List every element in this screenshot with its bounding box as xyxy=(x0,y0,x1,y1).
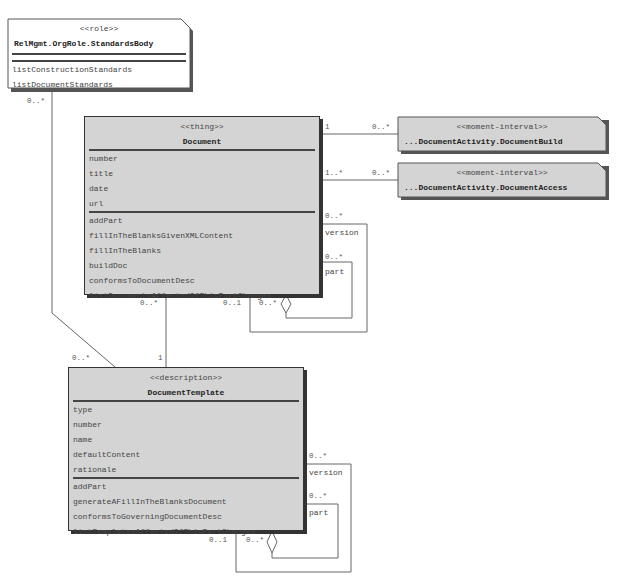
operation: conformsToGoverningDocumentDesc xyxy=(69,509,303,524)
operation: addPart xyxy=(69,479,303,494)
operation: generateAFillInTheBlanksDocument xyxy=(69,494,303,509)
multiplicity-label: 0..* xyxy=(246,536,264,544)
multiplicity-label: 1..* xyxy=(325,169,343,177)
role-label-part: part xyxy=(309,508,328,517)
class-name: ...DocumentActivity.DocumentBuild xyxy=(398,134,606,149)
class-stereotype: <<moment-interval>> xyxy=(398,163,606,180)
class-document-build[interactable]: <<moment-interval>> ...DocumentActivity.… xyxy=(398,117,606,151)
multiplicity-label: 0..* xyxy=(259,299,277,307)
class-name: DocumentTemplate xyxy=(69,385,303,400)
multiplicity-label: 0..1 xyxy=(209,536,227,544)
multiplicity-label: 0..* xyxy=(309,492,327,500)
multiplicity-label: 1 xyxy=(158,354,163,362)
uml-class-diagram: <<role>> RelMgmt.OrgRole.StandardsBody l… xyxy=(0,0,619,584)
role-label-version: version xyxy=(325,228,359,237)
class-name: ...DocumentActivity.DocumentAccess xyxy=(398,180,606,195)
class-stereotype: <<description>> xyxy=(69,368,303,385)
role-label-part: part xyxy=(325,267,344,276)
multiplicity-label: 0..* xyxy=(140,299,158,307)
multiplicity-label: 0..1 xyxy=(223,299,241,307)
attribute: type xyxy=(69,402,303,417)
class-stereotype: <<moment-interval>> xyxy=(398,117,606,134)
attribute: rationale xyxy=(69,462,303,477)
attribute: number xyxy=(69,417,303,432)
class-document-template[interactable]: <<description>> DocumentTemplate type nu… xyxy=(68,367,304,531)
multiplicity-label: 0..* xyxy=(27,97,45,105)
multiplicity-label: 0..* xyxy=(309,452,327,460)
multiplicity-label: 1 xyxy=(325,123,330,131)
multiplicity-label: 0..* xyxy=(325,212,343,220)
attribute: name xyxy=(69,432,303,447)
multiplicity-label: 0..* xyxy=(372,123,390,131)
multiplicity-label: 0..* xyxy=(72,354,90,362)
attribute: defaultContent xyxy=(69,447,303,462)
multiplicity-label: 0..* xyxy=(372,169,390,177)
multiplicity-label: 0..* xyxy=(325,253,343,261)
operation: listTemplatesAffectedIfThisPartChanges xyxy=(69,524,303,539)
class-document-access[interactable]: <<moment-interval>> ...DocumentActivity.… xyxy=(398,163,606,197)
role-label-version: version xyxy=(309,468,343,477)
